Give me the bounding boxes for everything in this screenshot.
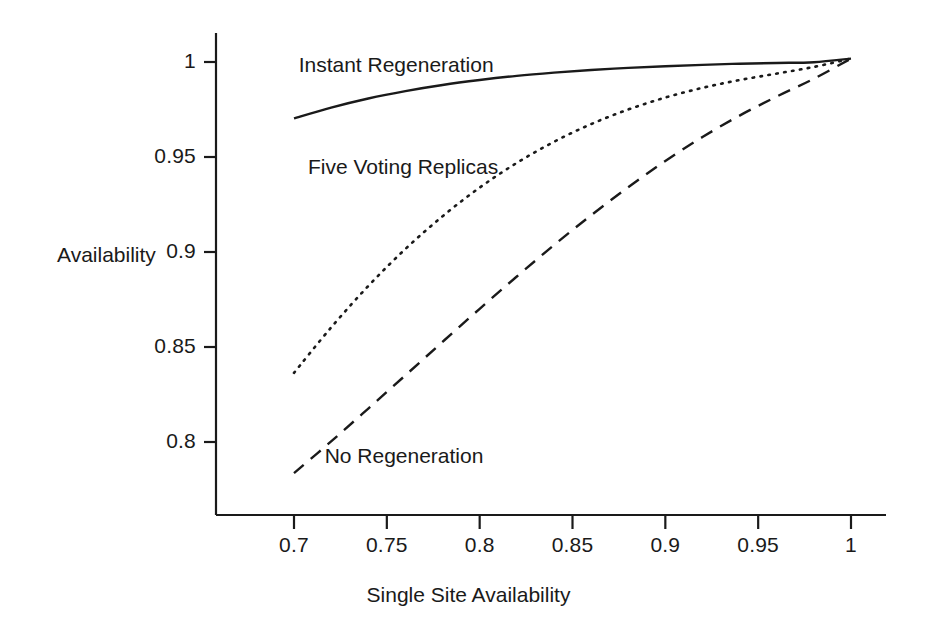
x-tick-label: 1 [801,533,901,557]
series-curve-five-voting-replicas [294,59,851,373]
y-tick-label: 0.95 [60,144,196,168]
series-annotation-no-regeneration: No Regeneration [325,444,484,468]
x-tick-label: 0.8 [430,533,530,557]
x-axis-title: Single Site Availability [0,583,937,607]
y-tick-label: 0.85 [60,334,196,358]
availability-chart-figure: 10.950.90.850.8 0.70.750.80.850.90.951 A… [0,0,937,632]
series-annotation-five-voting-replicas: Five Voting Replicas [308,155,498,179]
y-tick-label: 0.8 [60,429,196,453]
x-tick-label: 0.7 [244,533,344,557]
x-tick-label: 0.95 [708,533,808,557]
x-axis-ticks [294,515,851,529]
x-tick-label: 0.75 [337,533,437,557]
y-tick-label: 1 [60,49,196,73]
x-tick-label: 0.9 [615,533,715,557]
series-curve-no-regeneration [294,59,851,474]
y-axis-title: Availability [57,243,156,267]
y-axis-ticks [204,62,216,442]
chart-series-curves [294,59,851,474]
series-annotation-instant-regeneration: Instant Regeneration [299,53,494,77]
chart-axes [216,33,886,515]
x-tick-label: 0.85 [523,533,623,557]
